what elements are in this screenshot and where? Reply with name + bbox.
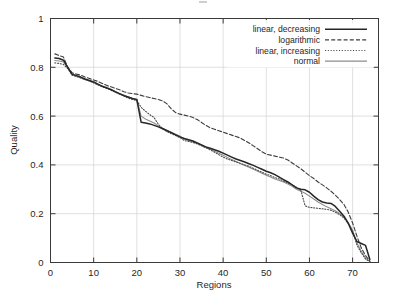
x-tick-label: 30 — [175, 267, 186, 278]
chart-figure: 010203040506070 00.20.40.60.81 Regions Q… — [0, 0, 395, 306]
y-axis-label: Quality — [8, 125, 19, 155]
y-tick-label: 0 — [38, 257, 43, 268]
x-tick-label: 60 — [304, 267, 315, 278]
line-chart-svg: 010203040506070 00.20.40.60.81 Regions Q… — [0, 0, 395, 306]
y-tick-labels: 00.20.40.60.81 — [30, 13, 43, 268]
legend-label-linear-increasing: linear, increasing — [256, 46, 321, 56]
data-series-layer — [55, 54, 370, 262]
y-tick-label: 0.8 — [30, 62, 43, 73]
y-tick-label: 0.6 — [30, 111, 43, 122]
series-line-linear-increasing — [55, 63, 370, 262]
scan-artifact-top — [199, 1, 207, 3]
y-tick-label: 0.2 — [30, 208, 43, 219]
x-axis-label: Regions — [197, 279, 232, 290]
y-tick-label: 1 — [38, 13, 43, 24]
series-line-normal — [55, 60, 370, 261]
x-tick-labels: 010203040506070 — [48, 267, 358, 278]
x-tick-label: 40 — [218, 267, 229, 278]
series-line-logarithmic — [55, 54, 370, 261]
x-tick-label: 70 — [347, 267, 358, 278]
plot-container: 010203040506070 00.20.40.60.81 Regions Q… — [0, 0, 395, 306]
legend-label-logarithmic: logarithmic — [278, 35, 320, 45]
y-tick-label: 0.4 — [30, 159, 43, 170]
x-tick-label: 20 — [132, 267, 143, 278]
series-line-linear-decreasing — [55, 58, 370, 260]
x-tick-label: 10 — [88, 267, 99, 278]
x-tick-label: 0 — [48, 267, 53, 278]
legend: linear, decreasinglogarithmiclinear, inc… — [227, 20, 374, 67]
legend-label-linear-decreasing: linear, decreasing — [253, 24, 321, 34]
legend-label-normal: normal — [294, 56, 320, 66]
x-tick-label: 50 — [261, 267, 272, 278]
